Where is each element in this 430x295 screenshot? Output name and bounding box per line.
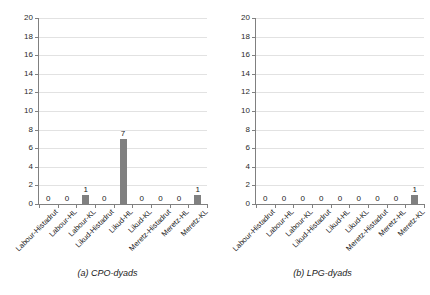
y-axis-tick-label: 0 [29, 200, 33, 208]
bar-value-label: 0 [356, 195, 360, 203]
bar-value-label: 0 [338, 195, 342, 203]
bar-slot: 0 [95, 18, 114, 204]
bar-slot: 0 [387, 18, 406, 204]
y-axis-tick-label: 16 [24, 51, 33, 59]
y-axis-tick-label: 10 [24, 107, 33, 115]
bar[interactable]: 7 [120, 139, 127, 204]
bar-value-label: 1 [412, 186, 416, 194]
bar-value-label: 0 [394, 195, 398, 203]
caption-lpg: (b) LPG-dyads [215, 268, 430, 278]
bar-slot: 0 [58, 18, 77, 204]
bar-slot: 0 [275, 18, 294, 204]
bar-value-label: 0 [177, 195, 181, 203]
y-axis-tick-label: 0 [246, 200, 250, 208]
bar-slot: 1 [405, 18, 424, 204]
plot-area-lpg: 02468101214161820 000000001 [255, 18, 424, 205]
y-axis-tick-label: 8 [29, 126, 33, 134]
plot-wrap-lpg: 02468101214161820 000000001 Labour-Hista… [255, 18, 424, 205]
bar-slot: 0 [170, 18, 189, 204]
bar-value-label: 0 [46, 195, 50, 203]
bar-value-label: 0 [282, 195, 286, 203]
bar-slot: 0 [331, 18, 350, 204]
y-axis-tick-label: 18 [241, 33, 250, 41]
y-axis-tick-label: 10 [241, 107, 250, 115]
x-axis-labels-cpo: Labour-HistadrutLabour-HLLabour-KLLikud-… [38, 205, 207, 265]
y-axis-tick-label: 4 [29, 163, 33, 171]
bar-slot: 7 [114, 18, 133, 204]
bar-slot: 1 [76, 18, 95, 204]
bar-value-label: 0 [375, 195, 379, 203]
plot-area-cpo: 02468101214161820 001070001 [38, 18, 207, 205]
bar-value-label: 0 [263, 195, 267, 203]
bar-slot: 1 [188, 18, 207, 204]
y-axis-tick-label: 18 [24, 33, 33, 41]
x-axis-labels-lpg: Labour-HistadrutLabour-HLLabour-KLLikud-… [255, 205, 424, 265]
bar-value-label: 1 [195, 186, 199, 194]
figure-two-bar-charts: 02468101214161820 001070001 Labour-Hista… [0, 0, 430, 295]
y-axis-tick-label: 6 [29, 144, 33, 152]
x-axis-tick [424, 204, 425, 208]
bar-series-cpo: 001070001 [39, 18, 207, 204]
y-axis-tick-label: 20 [241, 14, 250, 22]
bar[interactable]: 1 [194, 195, 201, 204]
y-axis-tick-label: 14 [24, 70, 33, 78]
y-axis-tick-label: 2 [246, 181, 250, 189]
bar-slot: 0 [39, 18, 58, 204]
y-axis-tick-label: 8 [246, 126, 250, 134]
bar[interactable]: 1 [82, 195, 89, 204]
chart-panel-cpo-dyads: 02468101214161820 001070001 Labour-Hista… [0, 0, 215, 295]
bar-value-label: 0 [139, 195, 143, 203]
bar-slot: 0 [151, 18, 170, 204]
bar-value-label: 0 [102, 195, 106, 203]
y-axis-tick-label: 14 [241, 70, 250, 78]
bar-value-label: 7 [121, 130, 125, 138]
bar-value-label: 0 [65, 195, 69, 203]
y-axis-tick-label: 12 [241, 88, 250, 96]
y-axis-tick-label: 20 [24, 14, 33, 22]
x-axis-tick [207, 204, 208, 208]
bar-slot: 0 [368, 18, 387, 204]
caption-cpo: (a) CPO-dyads [0, 268, 215, 278]
y-axis-tick-label: 4 [246, 163, 250, 171]
bar-value-label: 0 [319, 195, 323, 203]
bar-slot: 0 [349, 18, 368, 204]
bar-value-label: 1 [83, 186, 87, 194]
plot-wrap-cpo: 02468101214161820 001070001 Labour-Hista… [38, 18, 207, 205]
chart-panel-lpg-dyads: 02468101214161820 000000001 Labour-Hista… [215, 0, 430, 295]
y-axis-tick-label: 12 [24, 88, 33, 96]
bar-series-lpg: 000000001 [256, 18, 424, 204]
bar[interactable]: 1 [411, 195, 418, 204]
bar-slot: 0 [256, 18, 275, 204]
y-axis-tick-label: 2 [29, 181, 33, 189]
y-axis-tick-label: 16 [241, 51, 250, 59]
bar-slot: 0 [293, 18, 312, 204]
y-axis-tick-label: 6 [246, 144, 250, 152]
bar-slot: 0 [312, 18, 331, 204]
bar-value-label: 0 [158, 195, 162, 203]
bar-slot: 0 [132, 18, 151, 204]
bar-value-label: 0 [300, 195, 304, 203]
